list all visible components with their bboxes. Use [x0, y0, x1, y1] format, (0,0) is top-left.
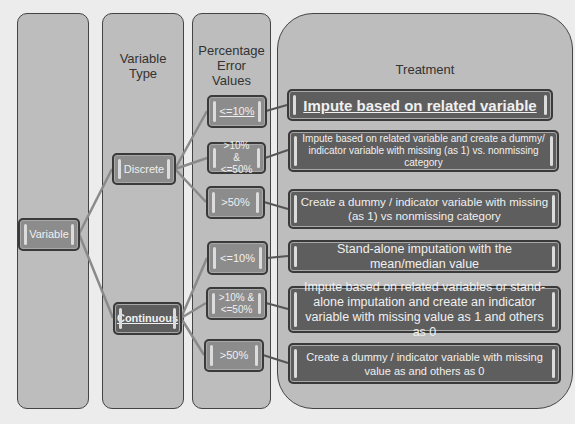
label-line: >10% & [219, 292, 254, 304]
discrete-node[interactable]: Discrete [112, 153, 176, 185]
node-label: >10% & <=50% [209, 292, 264, 316]
node-label: >50% [211, 196, 259, 209]
treatment-discrete-gt50[interactable]: Create a dummy / indicator variable with… [288, 189, 561, 229]
discrete-range-gt50-node[interactable]: >50% [206, 186, 265, 219]
label-line: <=50% [219, 164, 254, 176]
node-label: <=10% [210, 105, 265, 118]
node-label: >10% & <=50% [209, 140, 264, 176]
variable-node[interactable]: Variable [18, 218, 80, 251]
title-line: Variable [103, 51, 183, 66]
treatment-label: Impute based on related variables or sta… [290, 280, 559, 340]
title-line: Error [193, 58, 270, 73]
treatment-label: Stand-alone imputation with the mean/med… [290, 242, 559, 272]
treatment-continuous-gt50[interactable]: Create a dummy / indicator variable with… [288, 343, 561, 384]
treatment-label: Create a dummy / indicator variable with… [290, 350, 559, 378]
node-label: Variable [19, 228, 79, 241]
continuous-range-10-50-node[interactable]: >10% & <=50% [206, 287, 267, 320]
treatment-label: Impute based on related variable [293, 99, 546, 112]
variable-type-title: Variable Type [103, 51, 183, 81]
treatment-continuous-10-50[interactable]: Impute based on related variables or sta… [288, 286, 561, 333]
treatment-label: Impute based on related variable and cre… [290, 133, 557, 169]
variable-type-column: Variable Type [102, 13, 184, 409]
variable-column [17, 13, 89, 409]
title-line: Percentage [193, 43, 270, 58]
continuous-range-le10-node[interactable]: <=10% [207, 241, 268, 275]
discrete-range-10-50-node[interactable]: >10% & <=50% [207, 142, 266, 174]
percentage-error-title: Percentage Error Values [193, 43, 270, 88]
node-label: <=10% [210, 252, 265, 265]
treatment-label: Create a dummy / indicator variable with… [290, 195, 559, 223]
node-label: Continuous [113, 312, 182, 325]
label-line: <=50% [219, 304, 254, 316]
continuous-node[interactable]: Continuous [113, 302, 182, 335]
title-line: Type [103, 66, 183, 81]
node-label: Discrete [114, 163, 174, 176]
discrete-range-le10-node[interactable]: <=10% [207, 95, 267, 128]
title-line: Values [193, 73, 270, 88]
treatment-title: Treatment [278, 62, 572, 77]
treatment-continuous-le10[interactable]: Stand-alone imputation with the mean/med… [288, 240, 561, 273]
node-label: >50% [210, 349, 258, 362]
continuous-range-gt50-node[interactable]: >50% [204, 339, 264, 372]
label-line: >10% & [219, 140, 254, 164]
treatment-discrete-10-50[interactable]: Impute based on related variable and cre… [288, 130, 559, 172]
treatment-discrete-le10[interactable]: Impute based on related variable [287, 89, 553, 121]
